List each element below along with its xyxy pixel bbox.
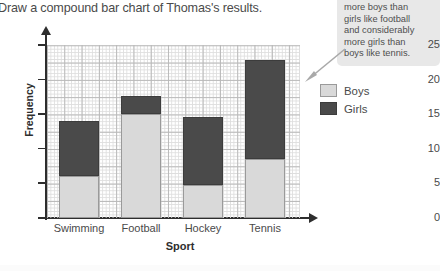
x-tick-label-tennis: Tennis [222,222,308,234]
y-tick-label: 15 [406,107,440,119]
bar-segment-boys [121,114,161,218]
y-tick-label: 20 [406,73,440,85]
legend-swatch-boys [320,84,337,97]
y-tick-label: 0 [406,211,440,223]
bar-segment-boys [245,159,285,218]
chart-legend: Boys Girls [320,84,369,120]
callout-line: girls like football [344,14,435,26]
bar-segment-girls [121,96,161,115]
y-tick-label: 25 [406,38,440,50]
callout-line: boys like tennis. [344,48,435,60]
bar-tennis[interactable] [245,60,285,218]
bar-segment-boys [59,176,99,218]
callout-box: more boys than girls like football and c… [337,0,440,66]
legend-item-boys[interactable]: Boys [320,84,369,97]
y-axis-title: Frequency [23,55,35,165]
bar-segment-girls [59,121,99,176]
bar-hockey[interactable] [183,117,223,218]
callout-line: and considerably [344,25,435,37]
legend-swatch-girls [320,102,337,115]
page-bottom-edge [0,265,440,271]
bar-segment-girls [183,117,223,185]
legend-label-girls: Girls [344,103,367,115]
x-axis-arrow-icon [309,213,318,223]
bar-football[interactable] [121,96,161,218]
bar-segment-boys [183,185,223,218]
bar-segment-girls [245,60,285,159]
y-tick-label: 10 [406,142,440,154]
x-axis-title: Sport [130,240,230,252]
plot-area [47,45,300,218]
callout-line: more boys than [344,2,435,14]
legend-item-girls[interactable]: Girls [320,102,369,115]
bar-swimming[interactable] [59,121,99,218]
y-tick-label: 5 [406,176,440,188]
instruction-text: Draw a compound bar chart of Thomas's re… [0,1,262,15]
legend-label-boys: Boys [344,85,369,97]
